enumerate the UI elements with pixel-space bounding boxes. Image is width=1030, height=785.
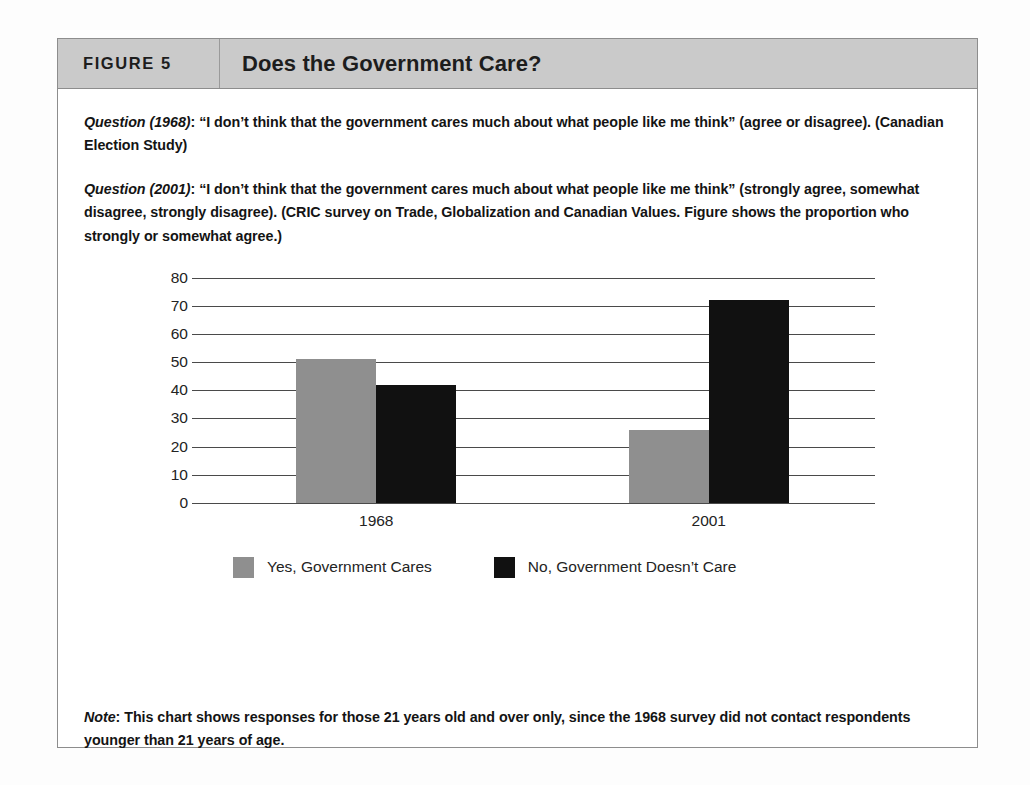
question-2001-lead: Question (2001) [84, 181, 191, 197]
figure-body: Question (1968): “I don’t think that the… [58, 89, 977, 747]
question-2001-text: : “I don’t think that the government car… [84, 181, 919, 243]
chart-legend: Yes, Government CaresNo, Government Does… [233, 557, 736, 578]
y-axis-tick-label: 30 [171, 409, 188, 427]
tick-stub-20 [192, 447, 210, 448]
note-text: : This chart shows responses for those 2… [84, 709, 910, 748]
y-axis-tick-label: 20 [171, 438, 188, 456]
bar-2001-no [709, 300, 789, 503]
question-1968-paragraph: Question (1968): “I don’t think that the… [84, 111, 950, 157]
x-axis-label-2001: 2001 [692, 512, 726, 530]
legend-item-yes: Yes, Government Cares [233, 557, 432, 578]
legend-swatch-yes [233, 557, 254, 578]
y-axis-tick-label: 10 [171, 466, 188, 484]
legend-label: Yes, Government Cares [267, 558, 432, 576]
y-axis-tick-label: 80 [171, 269, 188, 287]
question-1968-lead: Question (1968) [84, 114, 191, 130]
y-axis-tick-label: 40 [171, 381, 188, 399]
figure-number-label: FIGURE 5 [58, 54, 219, 73]
tick-stub-70 [192, 306, 210, 307]
y-axis-tick-label: 50 [171, 353, 188, 371]
y-axis-tick-label: 60 [171, 325, 188, 343]
tick-stub-50 [192, 362, 210, 363]
legend-swatch-no [494, 557, 515, 578]
x-axis-label-1968: 1968 [359, 512, 393, 530]
tick-stub-30 [192, 418, 210, 419]
note-lead: Note [84, 709, 116, 725]
figure-container: FIGURE 5 Does the Government Care? Quest… [57, 38, 978, 748]
question-2001-paragraph: Question (2001): “I don’t think that the… [84, 178, 950, 247]
y-axis-tick-label: 0 [179, 494, 188, 512]
tick-stub-40 [192, 390, 210, 391]
chart-plot-area: 80706050403020100 [210, 278, 875, 503]
tick-stub-60 [192, 334, 210, 335]
legend-item-no: No, Government Doesn’t Care [494, 557, 736, 578]
figure-header: FIGURE 5 Does the Government Care? [58, 39, 977, 89]
question-1968-text: : “I don’t think that the government car… [84, 114, 944, 153]
bars-group [210, 278, 875, 503]
bar-1968-no [376, 385, 456, 503]
bar-2001-yes [629, 430, 709, 503]
tick-stub-10 [192, 475, 210, 476]
gridline-0 [210, 503, 875, 504]
bar-chart: 80706050403020100 19682001 Yes, Governme… [84, 269, 951, 579]
x-axis-labels: 19682001 [210, 512, 875, 536]
bar-1968-yes [296, 359, 376, 502]
legend-label: No, Government Doesn’t Care [528, 558, 736, 576]
y-axis-tick-label: 70 [171, 297, 188, 315]
tick-stub-80 [192, 278, 210, 279]
figure-title: Does the Government Care? [220, 51, 542, 77]
tick-stub-0 [192, 503, 210, 504]
figure-note: Note: This chart shows responses for tho… [84, 706, 951, 752]
